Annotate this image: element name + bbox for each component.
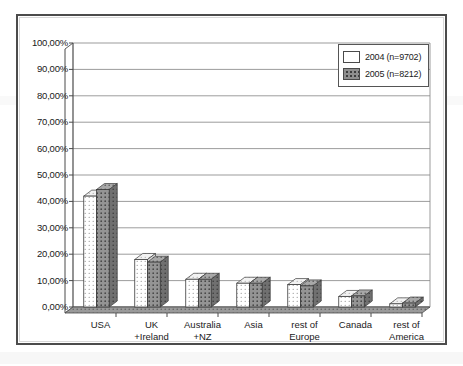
x-axis-label-line: Europe: [289, 331, 320, 343]
x-axis-label-line: UK: [134, 319, 169, 331]
x-axis-label-0: USA: [91, 319, 111, 331]
chart-legend: 2004 (n=9702) 2005 (n=8212): [338, 44, 429, 87]
x-axis-label-line: Canada: [339, 319, 372, 331]
x-axis-label-1: UK+Ireland: [134, 319, 169, 342]
x-axis-label-4: rest ofEurope: [289, 319, 320, 342]
legend-item-2004: 2004 (n=9702): [343, 49, 424, 65]
x-axis-label-line: rest of: [389, 319, 424, 331]
x-axis-label-line: +NZ: [184, 331, 221, 343]
x-axis-label-3: Asia: [244, 319, 262, 331]
x-axis-label-line: Asia: [244, 319, 262, 331]
legend-item-2005: 2005 (n=8212): [343, 66, 424, 82]
x-axis-label-line: +Ireland: [134, 331, 169, 343]
x-axis-label-line: Australia: [184, 319, 221, 331]
x-axis-label-2: Australia+NZ: [184, 319, 221, 342]
x-axis-label-5: Canada: [339, 319, 372, 331]
x-axis-label-6: rest ofAmerica: [389, 319, 424, 342]
legend-label-2004: 2004 (n=9702): [365, 52, 421, 62]
legend-swatch-2005-icon: [343, 68, 360, 80]
legend-swatch-2004-icon: [343, 51, 360, 63]
legend-label-2005: 2005 (n=8212): [365, 69, 421, 79]
x-axis-label-line: rest of: [289, 319, 320, 331]
x-axis-label-line: USA: [91, 319, 111, 331]
x-axis-label-line: America: [389, 331, 424, 343]
